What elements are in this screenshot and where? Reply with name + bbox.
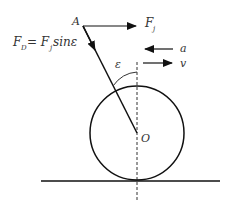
label-point-a: A — [71, 15, 80, 28]
wheel-force-diagram: A F j F D = F j sinε a v ε O — [0, 0, 231, 210]
label-velocity: v — [180, 57, 187, 70]
label-angle-epsilon: ε — [115, 58, 121, 71]
angle-arc — [113, 72, 137, 86]
formula-fd-sub: D — [20, 44, 27, 52]
formula-sin-eps: sinε — [53, 35, 77, 49]
fd-arrow — [83, 26, 95, 50]
label-accel: a — [180, 42, 187, 55]
formula-eq-fj: = F — [27, 35, 50, 49]
label-center-o: O — [141, 132, 150, 145]
